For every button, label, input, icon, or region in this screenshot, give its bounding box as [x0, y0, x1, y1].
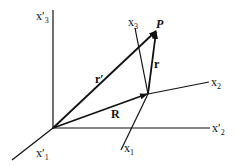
svg-text:x′1: x′1: [36, 146, 49, 162]
vector-r-prime: [53, 31, 156, 128]
coordinate-frames-diagram: x′3 x3 P r′ r x2 R x′2 x′1 x1: [0, 0, 236, 166]
label-x2-prime: x′2: [212, 121, 225, 137]
svg-text:x3: x3: [128, 15, 138, 31]
svg-text:x′3: x′3: [36, 9, 49, 25]
svg-text:x2: x2: [211, 75, 221, 91]
label-P: P: [156, 17, 164, 31]
label-r: r: [154, 57, 160, 71]
label-x2: x2: [211, 75, 221, 91]
label-r-prime: r′: [95, 72, 104, 86]
vector-R: [53, 94, 147, 128]
label-R: R: [111, 107, 120, 121]
axis-x3: [135, 28, 148, 94]
svg-text:x′2: x′2: [212, 121, 225, 137]
svg-text:x1: x1: [124, 141, 134, 157]
label-x3-prime: x′3: [36, 9, 49, 25]
label-x3: x3: [128, 15, 138, 31]
axis-x2: [148, 82, 209, 94]
label-x1: x1: [124, 141, 134, 157]
label-x1-prime: x′1: [36, 146, 49, 162]
